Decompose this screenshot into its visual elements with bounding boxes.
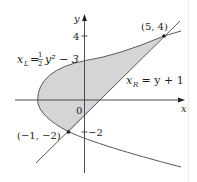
left-curve-frac-den: 2: [38, 60, 42, 68]
point-5-4: [162, 34, 166, 38]
region-diagram: y x 0 4 −2 (5, 4) (−1, −2) x L = 1 2 y² …: [0, 0, 197, 182]
left-curve-frac-num: 1: [38, 51, 42, 59]
right-curve-label-rest: = y + 1: [138, 74, 184, 87]
y-tick-label-neg2: −2: [88, 127, 103, 138]
y-axis-arrow-icon: [82, 14, 87, 21]
x-axis-arrow-icon: [178, 98, 185, 103]
y-axis-label: y: [73, 13, 80, 24]
point-label-neg1-neg2: (−1, −2): [17, 130, 61, 141]
right-curve-label-x: x: [126, 74, 133, 87]
point-neg1-neg2: [67, 130, 71, 134]
right-curve-label: x R = y + 1: [126, 74, 184, 89]
left-curve-label-x: x: [17, 53, 24, 66]
left-curve-label-sub: L: [23, 60, 29, 68]
x-axis-label: x: [181, 103, 187, 114]
left-curve-label: x L = 1 2 y² − 3: [17, 51, 79, 68]
origin-label: 0: [76, 105, 82, 116]
point-label-5-4: (5, 4): [141, 21, 168, 32]
y-tick-label-4: 4: [73, 31, 79, 42]
left-curve-label-rest: y² − 3: [44, 53, 79, 66]
